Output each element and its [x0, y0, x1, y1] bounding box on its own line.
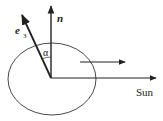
e3-label: e [15, 24, 20, 36]
e3-subscript: 3 [23, 32, 27, 40]
body-ellipse [8, 43, 96, 115]
normal-label: n [57, 12, 63, 24]
angle-label: α [43, 47, 49, 58]
sun-label: Sun [136, 86, 154, 98]
diagram-canvas: n e 3 α Sun [0, 0, 163, 121]
